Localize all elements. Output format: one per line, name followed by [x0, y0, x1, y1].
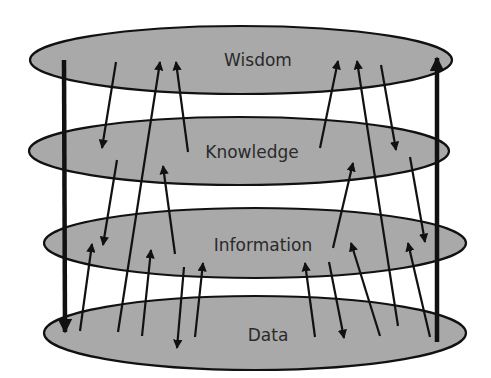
arrow-icon-thick-down-left	[64, 60, 65, 332]
layer-label-data: Data	[248, 325, 289, 345]
layers-group	[29, 26, 466, 370]
arrow-icon-data-to-wisdom-l	[118, 62, 160, 332]
dikw-diagram: WisdomKnowledgeInformationData	[0, 0, 491, 378]
layer-label-wisdom: Wisdom	[224, 50, 292, 70]
arrow-icon-data-to-wisdom-r	[357, 61, 398, 326]
layer-label-information: Information	[214, 235, 312, 255]
layer-label-knowledge: Knowledge	[205, 142, 298, 162]
